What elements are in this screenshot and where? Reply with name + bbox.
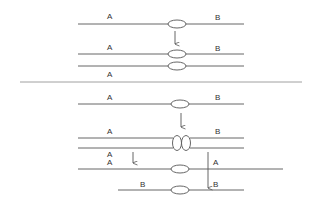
bottom-split-centromere-left xyxy=(173,136,182,151)
label-bottom-row2-right: B xyxy=(215,128,220,136)
bottom-centromere-a xyxy=(171,165,189,173)
label-top-row1-left: A xyxy=(107,13,112,21)
top-centromere-1 xyxy=(168,20,186,28)
label-bottom-row4-left: A xyxy=(107,159,112,167)
top-centromere-3 xyxy=(168,62,186,70)
bottom-centromere-b xyxy=(171,186,189,194)
label-top-row3-left: A xyxy=(107,71,112,79)
label-top-row2-left: A xyxy=(107,44,112,52)
label-bottom-row1-left: A xyxy=(107,94,112,102)
bottom-panel xyxy=(78,100,283,194)
label-top-row2-right: B xyxy=(215,45,220,53)
bottom-split-centromere-right xyxy=(182,136,191,151)
bottom-centromere-1 xyxy=(171,100,189,108)
top-centromere-2 xyxy=(168,50,186,58)
label-bottom-row4-right: A xyxy=(213,159,218,167)
label-bottom-row5-right: B xyxy=(213,181,218,189)
label-bottom-row2-left: A xyxy=(107,128,112,136)
chromosome-diagram xyxy=(0,0,315,205)
label-top-row1-right: B xyxy=(215,14,220,22)
label-bottom-row5-left: B xyxy=(140,181,145,189)
label-bottom-row1-right: B xyxy=(215,94,220,102)
